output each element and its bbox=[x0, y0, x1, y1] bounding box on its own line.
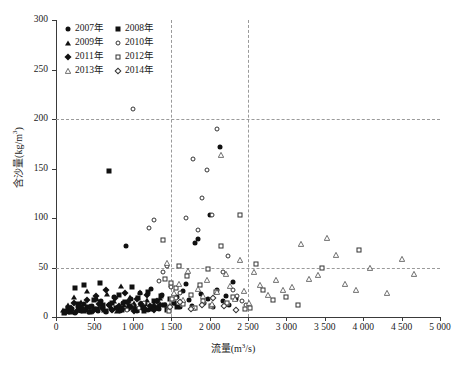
x-axis-title: 流量(m3/s) bbox=[0, 340, 466, 355]
legend-item-2010年[interactable]: 2010年 bbox=[114, 36, 154, 49]
data-point bbox=[251, 269, 257, 275]
data-point bbox=[224, 294, 229, 299]
data-point-open-square bbox=[115, 54, 120, 59]
data-point bbox=[246, 300, 252, 306]
data-point bbox=[189, 293, 194, 298]
data-point bbox=[204, 277, 210, 283]
data-point bbox=[157, 279, 162, 284]
x-axis-title-text: 流量(m3/s) bbox=[211, 343, 256, 354]
legend-marker-open-triangle bbox=[64, 67, 71, 74]
data-point bbox=[200, 293, 206, 299]
data-point bbox=[176, 263, 181, 268]
data-point bbox=[399, 256, 405, 262]
data-point bbox=[72, 286, 77, 291]
data-point bbox=[271, 298, 276, 303]
data-point bbox=[384, 290, 390, 296]
legend-item-2011年[interactable]: 2011年 bbox=[64, 50, 104, 63]
data-point bbox=[280, 287, 286, 293]
data-point bbox=[217, 144, 222, 149]
data-point bbox=[289, 284, 295, 290]
x-tick-3500 bbox=[325, 317, 326, 321]
data-point bbox=[176, 281, 182, 287]
data-point bbox=[209, 213, 214, 218]
data-point bbox=[151, 217, 156, 222]
x-tick-1500 bbox=[171, 317, 172, 321]
data-point bbox=[147, 225, 152, 230]
data-point bbox=[196, 236, 201, 241]
data-point bbox=[171, 290, 177, 296]
data-point bbox=[174, 305, 179, 310]
data-point bbox=[191, 156, 196, 161]
legend-item-2012年[interactable]: 2012年 bbox=[114, 50, 154, 63]
data-point bbox=[223, 271, 229, 277]
legend-item-2014年[interactable]: 2014年 bbox=[114, 64, 154, 77]
data-point bbox=[324, 235, 330, 241]
data-point bbox=[195, 286, 201, 292]
data-point bbox=[298, 241, 304, 247]
legend-marker-open-diamond bbox=[114, 67, 121, 74]
legend-label: 2011年 bbox=[75, 50, 104, 63]
data-point bbox=[232, 307, 239, 314]
data-point bbox=[186, 298, 191, 303]
legend-marker-filled-triangle bbox=[64, 39, 71, 46]
data-point bbox=[130, 107, 135, 112]
data-point bbox=[218, 152, 224, 158]
data-point bbox=[357, 247, 362, 252]
scatter-chart: 050100150200250300 05001 0001 5002 0002 … bbox=[0, 0, 466, 371]
data-point bbox=[107, 169, 112, 174]
x-tick-5000 bbox=[440, 317, 441, 321]
data-point bbox=[97, 281, 102, 286]
data-point bbox=[227, 283, 233, 289]
data-point bbox=[295, 303, 300, 308]
x-tick-4000 bbox=[363, 317, 364, 321]
data-point bbox=[237, 257, 243, 263]
legend-item-2007年[interactable]: 2007年 bbox=[64, 22, 104, 35]
data-point bbox=[232, 296, 238, 302]
data-point bbox=[196, 227, 201, 232]
data-point bbox=[118, 284, 124, 289]
data-point bbox=[129, 285, 134, 290]
legend-item-2008年[interactable]: 2008年 bbox=[114, 22, 154, 35]
legend-label: 2014年 bbox=[125, 64, 154, 77]
data-point bbox=[123, 243, 128, 248]
data-point bbox=[320, 266, 325, 271]
data-point bbox=[214, 289, 220, 295]
data-point bbox=[353, 287, 359, 293]
data-point bbox=[178, 291, 183, 296]
data-point bbox=[306, 276, 312, 282]
data-point bbox=[169, 297, 174, 302]
data-point bbox=[247, 306, 252, 311]
y-tick-label-50: 50 bbox=[8, 262, 48, 272]
data-point bbox=[237, 213, 242, 218]
y-axis-title-text: 含沙量(kg/m3) bbox=[13, 127, 24, 188]
legend-label: 2012年 bbox=[125, 50, 154, 63]
y-axis-title: 含沙量(kg/m3) bbox=[10, 88, 25, 228]
data-point bbox=[163, 277, 168, 282]
data-point bbox=[215, 126, 220, 131]
data-point-open-diamond bbox=[114, 67, 121, 74]
legend-item-2009年[interactable]: 2009年 bbox=[64, 36, 104, 49]
data-point bbox=[241, 288, 247, 294]
data-point bbox=[273, 277, 279, 283]
legend: 2007年2008年2009年2010年2011年2012年2013年2014年 bbox=[64, 22, 154, 77]
data-point bbox=[257, 282, 263, 288]
data-point bbox=[82, 283, 87, 288]
legend-item-2013年[interactable]: 2013年 bbox=[64, 64, 104, 77]
x-tick-4500 bbox=[402, 317, 403, 321]
data-point-filled-square bbox=[115, 26, 120, 31]
data-point bbox=[204, 168, 209, 173]
x-tick-1000 bbox=[133, 317, 134, 321]
data-point bbox=[315, 272, 321, 278]
data-point bbox=[342, 281, 348, 287]
data-point-filled-circle bbox=[65, 26, 70, 31]
legend-label: 2008年 bbox=[125, 22, 154, 35]
data-point-filled-triangle bbox=[65, 40, 71, 45]
data-point bbox=[265, 292, 271, 298]
data-point bbox=[367, 265, 373, 271]
legend-label: 2009年 bbox=[75, 36, 104, 49]
x-tick-label-5000: 5 000 bbox=[417, 322, 463, 332]
data-point bbox=[160, 270, 165, 275]
x-tick-2000 bbox=[210, 317, 211, 321]
data-point-filled-diamond bbox=[64, 53, 71, 60]
data-point bbox=[185, 268, 191, 274]
